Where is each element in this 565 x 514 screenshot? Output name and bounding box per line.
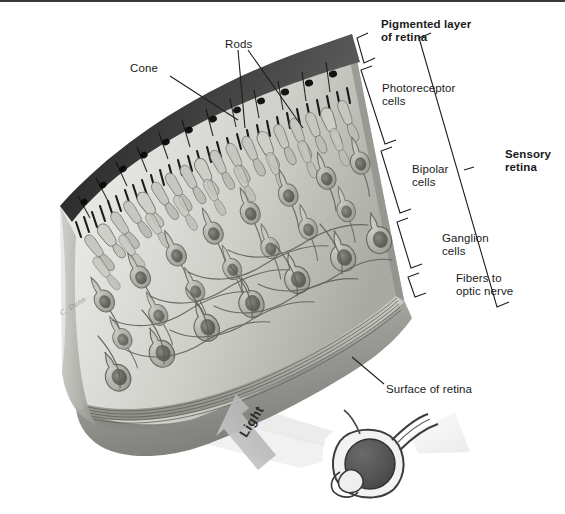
label-photoreceptor-line2: cells — [382, 95, 406, 108]
label-surface-of-retina: Surface of retina — [386, 383, 472, 396]
label-bipolar-line2: cells — [412, 176, 436, 189]
label-ganglion-line1: Ganglion — [442, 232, 489, 245]
eye-lens — [338, 470, 363, 493]
fibers-bracket — [408, 273, 426, 297]
label-cone: Cone — [130, 62, 158, 75]
eye-inset — [323, 410, 438, 506]
retina-illustration — [0, 0, 565, 514]
label-pigmented-layer-line1: Pigmented layer — [381, 18, 471, 31]
label-photoreceptor-line1: Photoreceptor — [382, 82, 456, 95]
label-bipolar-line1: Bipolar — [412, 163, 449, 176]
retina-diagram-figure: Cone Rods Pigmented layer of retina Phot… — [0, 0, 565, 514]
label-sensory-retina-line1: Sensory — [505, 148, 551, 161]
label-sensory-retina-line2: retina — [505, 161, 537, 174]
label-ganglion-line2: cells — [442, 245, 466, 258]
label-pigmented-layer-line2: of retina — [381, 31, 427, 44]
bipolar-bracket — [381, 147, 411, 213]
label-fibers-line1: Fibers to — [456, 272, 502, 285]
label-rods: Rods — [225, 38, 252, 51]
ganglion-bracket — [397, 218, 422, 268]
pigmented-layer-bracket — [357, 33, 375, 63]
sensory-retina-tick — [464, 167, 474, 170]
label-fibers-line2: optic nerve — [456, 285, 513, 298]
